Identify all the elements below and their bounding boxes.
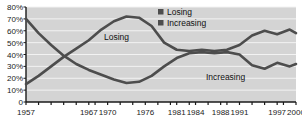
x-axis-tick-label: 2000 [287,108,302,117]
x-axis-tick-label: 1970 [99,108,117,117]
legend-swatch [158,9,164,15]
x-axis-tick-labels: 1957196719701976198119841988199119972000 [17,108,302,117]
x-axis-tick-label: 1957 [17,108,35,117]
y-axis-tick-label: 50% [7,39,23,48]
legend-label: Increasing [167,18,206,28]
x-axis-tick-label: 1991 [231,108,249,117]
increasing-inline-label: Increasing [206,72,245,82]
line-chart: 010%20%30%40%50%60%70%80% 19571967197019… [0,0,302,129]
legend-label: Losing [167,7,192,17]
y-axis-tick-label: 0 [19,98,24,107]
legend-swatch [158,20,164,26]
y-axis-tick-label: 70% [7,15,23,24]
y-axis-tick-label: 30% [7,62,23,71]
x-axis-tick-label: 1997 [268,108,286,117]
y-axis-tick-label: 80% [7,3,23,12]
x-axis-tick-label: 1976 [136,108,154,117]
x-axis-tick-label: 1967 [80,108,98,117]
x-axis-tick-label: 1984 [187,108,205,117]
y-axis-tick-labels: 010%20%30%40%50%60%70%80% [7,3,24,107]
x-axis-tick-label: 1988 [212,108,230,117]
y-axis-tick-label: 20% [7,74,23,83]
y-axis-tick-label: 40% [7,51,23,60]
chart-canvas: 010%20%30%40%50%60%70%80% 19571967197019… [0,0,302,129]
losing-inline-label: Losing [104,32,129,42]
x-axis-tick-label: 1981 [168,108,186,117]
y-axis-tick-label: 10% [7,86,23,95]
y-axis-tick-label: 60% [7,27,23,36]
